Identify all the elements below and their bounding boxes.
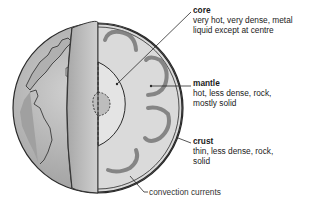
core-desc-line-2: liquid except at centre bbox=[193, 25, 293, 35]
crust-leader-line bbox=[178, 138, 191, 143]
convection-currents-label: convection currents bbox=[149, 187, 221, 197]
core-label: core very hot, very dense, metal liquid … bbox=[193, 5, 293, 35]
core-desc-line-1: very hot, very dense, metal bbox=[193, 15, 293, 25]
mantle-desc-line-1: hot, less dense, rock, bbox=[193, 88, 271, 98]
core-title: core bbox=[193, 5, 293, 15]
mantle-title: mantle bbox=[193, 78, 271, 88]
crust-desc-line-1: thin, less dense, rock, bbox=[193, 146, 273, 156]
mantle-label: mantle hot, less dense, rock, mostly sol… bbox=[193, 78, 271, 108]
crust-desc-line-2: solid bbox=[193, 156, 273, 166]
crust-label: crust thin, less dense, rock, solid bbox=[193, 136, 273, 166]
mantle-desc-line-2: mostly solid bbox=[193, 98, 271, 108]
crust-title: crust bbox=[193, 136, 273, 146]
